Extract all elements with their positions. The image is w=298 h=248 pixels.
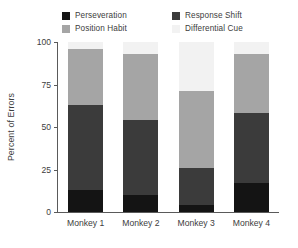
x-tick-label-monkey-4: Monkey 4 — [224, 218, 279, 228]
bar-slot — [169, 42, 224, 212]
y-tick-label-0: 0 — [46, 207, 51, 217]
x-axis-line — [57, 212, 279, 213]
y-tick-label-50: 50 — [41, 122, 51, 132]
bar-segment-perseveration[interactable] — [179, 205, 214, 212]
bar-slot — [113, 42, 168, 212]
legend-item-perseveration: Perseveration — [62, 12, 172, 20]
bar-segment-response-shift[interactable] — [234, 113, 269, 183]
stacked-bar-chart: Perseveration Response Shift Position Ha… — [0, 0, 298, 248]
bar-segment-perseveration[interactable] — [123, 195, 158, 212]
legend-swatch-response-shift — [172, 12, 180, 20]
bar-segment-response-shift[interactable] — [68, 105, 103, 190]
bar-slot — [58, 42, 113, 212]
x-tick-label-monkey-2: Monkey 2 — [113, 218, 168, 228]
bar-segment-perseveration[interactable] — [234, 183, 269, 212]
y-tick-label-100: 100 — [37, 37, 51, 47]
legend-swatch-position-habit — [62, 25, 70, 33]
y-tick-label-75: 75 — [41, 80, 51, 90]
legend-label-position-habit: Position Habit — [75, 25, 127, 33]
legend-swatch-differential-cue — [172, 25, 180, 33]
legend-item-position-habit: Position Habit — [62, 25, 172, 33]
bar-segment-differential-cue[interactable] — [179, 42, 214, 91]
legend-label-response-shift: Response Shift — [185, 12, 242, 20]
plot-area: 100 75 50 25 0 Monkey 1 Monkey 2 — [57, 42, 279, 212]
bar-stack[interactable] — [68, 42, 103, 212]
y-tick-label-25: 25 — [41, 165, 51, 175]
bar-segment-perseveration[interactable] — [68, 190, 103, 212]
chart-legend: Perseveration Response Shift Position Ha… — [62, 10, 294, 36]
x-tick-label-monkey-3: Monkey 3 — [169, 218, 224, 228]
legend-label-differential-cue: Differential Cue — [185, 25, 243, 33]
x-tick-label-monkey-1: Monkey 1 — [58, 218, 113, 228]
bar-stack[interactable] — [179, 42, 214, 212]
legend-label-perseveration: Perseveration — [75, 12, 127, 20]
bar-segment-differential-cue[interactable] — [123, 42, 158, 54]
y-axis-label: Percent of Errors — [6, 42, 18, 212]
legend-item-differential-cue: Differential Cue — [172, 25, 294, 33]
bar-slot — [224, 42, 279, 212]
bar-segment-position-habit[interactable] — [68, 49, 103, 105]
bar-segment-response-shift[interactable] — [123, 120, 158, 195]
legend-swatch-perseveration — [62, 12, 70, 20]
bar-segment-position-habit[interactable] — [234, 54, 269, 114]
bar-segment-differential-cue[interactable] — [68, 42, 103, 49]
bar-segment-position-habit[interactable] — [179, 91, 214, 168]
bar-stack[interactable] — [234, 42, 269, 212]
legend-item-response-shift: Response Shift — [172, 12, 294, 20]
bar-segment-position-habit[interactable] — [123, 54, 158, 120]
bar-stack[interactable] — [123, 42, 158, 212]
bar-segment-response-shift[interactable] — [179, 168, 214, 205]
bar-segment-differential-cue[interactable] — [234, 42, 269, 54]
bars-container — [58, 42, 279, 212]
